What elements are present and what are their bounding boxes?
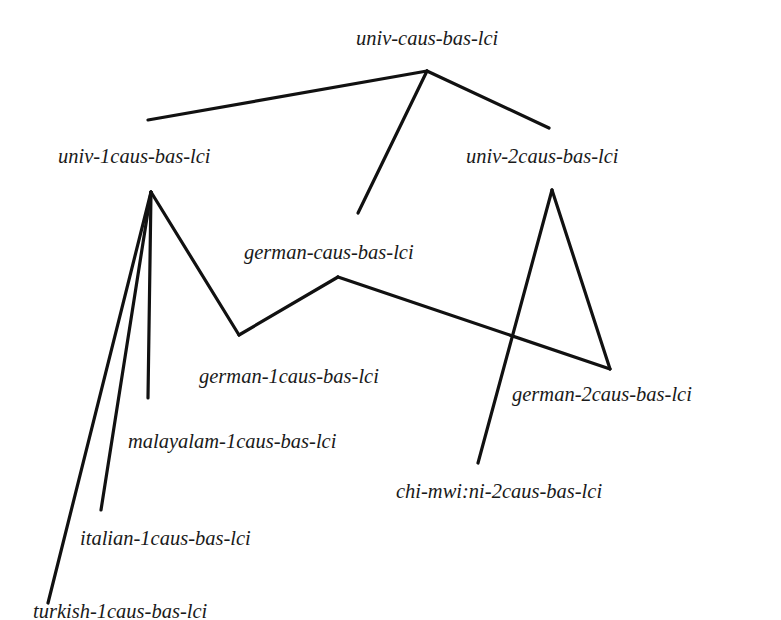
node-label-german-caus: german-caus-bas-lci xyxy=(244,242,414,263)
node-label-malayalam-1caus: malayalam-1caus-bas-lci xyxy=(128,431,336,452)
edge-univ-2caus-to-german-2caus xyxy=(552,190,610,369)
node-label-univ-2caus: univ-2caus-bas-lci xyxy=(466,146,619,167)
edge-german-caus-to-german-1caus xyxy=(239,277,338,335)
edge-univ-caus-to-german-caus xyxy=(358,71,427,213)
node-label-univ-caus: univ-caus-bas-lci xyxy=(356,28,498,49)
edge-univ-1caus-to-german-1caus xyxy=(151,192,239,335)
node-label-chi-mwini-2caus: chi-mwi:ni-2caus-bas-lci xyxy=(396,481,602,502)
node-label-univ-1caus: univ-1caus-bas-lci xyxy=(58,146,211,167)
node-label-german-2caus: german-2caus-bas-lci xyxy=(512,384,692,405)
node-label-german-1caus: german-1caus-bas-lci xyxy=(199,366,379,387)
edge-univ-1caus-to-italian-1caus xyxy=(101,192,151,510)
hierarchy-diagram: univ-caus-bas-lciuniv-1caus-bas-lciuniv-… xyxy=(0,0,781,620)
edge-univ-caus-to-univ-2caus xyxy=(427,71,549,128)
node-label-italian-1caus: italian-1caus-bas-lci xyxy=(80,528,251,549)
node-label-turkish-1caus: turkish-1caus-bas-lci xyxy=(33,601,207,620)
edge-univ-1caus-to-malayalam-1caus xyxy=(148,192,151,398)
edge-univ-caus-to-univ-1caus xyxy=(148,71,427,120)
edge-german-caus-to-german-2caus xyxy=(338,277,610,369)
